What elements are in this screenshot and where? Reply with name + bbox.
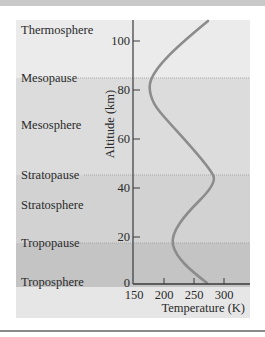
y-tick-100: 100 — [111, 34, 130, 48]
y-tick-40: 40 — [118, 181, 131, 195]
y-axis-title: Altitude (km) — [103, 90, 117, 158]
bottom-rule — [0, 330, 265, 332]
y-ticks — [133, 41, 140, 237]
x-axis-title: Temperature (K) — [162, 301, 245, 315]
y-tick-80: 80 — [118, 83, 131, 97]
x-tick-250: 250 — [185, 288, 204, 302]
x-tick-150: 150 — [125, 288, 144, 302]
x-tick-300: 300 — [215, 288, 234, 302]
temperature-altitude-plot: 100 80 60 40 20 0 150 200 250 300 Temper… — [0, 0, 265, 337]
x-ticks — [164, 278, 224, 284]
temperature-curve — [150, 21, 214, 283]
y-tick-20: 20 — [118, 230, 131, 244]
x-tick-200: 200 — [155, 288, 174, 302]
y-tick-60: 60 — [118, 132, 131, 146]
